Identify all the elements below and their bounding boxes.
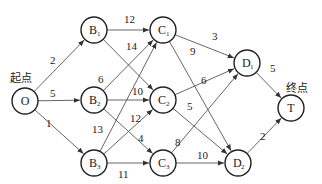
node-subscript: 2 xyxy=(97,100,101,108)
edge-weight-c3-d2: 10 xyxy=(197,149,209,161)
edge-weight-d1-t: 5 xyxy=(270,62,276,74)
edge-weight-o-b3: 1 xyxy=(46,117,52,129)
edge-b3-c2 xyxy=(104,109,153,154)
node-subscript: 1 xyxy=(250,63,254,71)
edge-c2-d2 xyxy=(173,108,227,154)
node-c1: C1 xyxy=(150,17,176,43)
edge-o-b1 xyxy=(34,40,84,92)
edge-weight-c1-d1: 3 xyxy=(212,30,218,42)
edge-b3-c1 xyxy=(100,42,157,151)
node-subscript: 2 xyxy=(241,163,245,171)
start-label: 起点 xyxy=(10,72,32,85)
edge-weight-c2-d2: 5 xyxy=(187,100,193,112)
edge-o-b2 xyxy=(38,100,80,101)
edge-o-b3 xyxy=(35,110,84,154)
node-d2: D2 xyxy=(225,150,251,176)
edge-weight-b3-c1: 13 xyxy=(92,123,104,135)
edge-d1-t xyxy=(256,72,281,98)
node-label: B xyxy=(89,156,97,170)
edge-weight-c2-d1: 6 xyxy=(201,74,207,86)
edge-weight-b1-c2: 14 xyxy=(126,40,138,52)
node-c3: C3 xyxy=(150,150,176,176)
node-label: C xyxy=(158,23,166,37)
node-o: O xyxy=(12,88,38,114)
node-subscript: 2 xyxy=(166,100,170,108)
edge-weight-b2-c2: 10 xyxy=(132,85,144,97)
node-b1: B1 xyxy=(81,17,107,43)
node-d1: D1 xyxy=(234,50,260,76)
end-label: 终点 xyxy=(286,81,308,95)
node-label: C xyxy=(158,93,166,107)
edge-weight-c1-d2: 9 xyxy=(190,45,196,57)
nodes: OB1B2B3C1C2C3D1D2T xyxy=(12,17,304,176)
node-c2: C2 xyxy=(150,87,176,113)
edge-weight-o-b1: 2 xyxy=(50,54,56,66)
edge-c1-d1 xyxy=(175,35,234,58)
edge-weight-b2-c3: 4 xyxy=(138,132,144,144)
node-label: B xyxy=(89,93,97,107)
edge-weight-b3-c3: 11 xyxy=(118,168,129,180)
edge-weight-d2-t: 2 xyxy=(260,130,266,142)
node-label: O xyxy=(21,94,30,108)
node-label: B xyxy=(89,23,97,37)
edge-weight-b1-c1: 12 xyxy=(124,13,135,25)
node-subscript: 3 xyxy=(97,163,101,171)
node-t: T xyxy=(278,95,304,121)
edge-weight-o-b2: 5 xyxy=(50,87,56,99)
node-label: T xyxy=(287,101,295,115)
edge-weight-b3-c2: 12 xyxy=(130,112,141,124)
edge-weight-c3-d1: 8 xyxy=(175,136,181,148)
node-b2: B2 xyxy=(81,87,107,113)
node-label: C xyxy=(158,156,166,170)
node-b3: B3 xyxy=(81,150,107,176)
node-subscript: 3 xyxy=(166,163,170,171)
network-diagram: 25112146104131211396581052 OB1B2B3C1C2C3… xyxy=(0,0,322,184)
edge-weight-b2-c1: 6 xyxy=(98,73,104,85)
node-subscript: 1 xyxy=(97,30,101,38)
node-subscript: 1 xyxy=(166,30,170,38)
edge-c1-d2 xyxy=(169,41,231,150)
